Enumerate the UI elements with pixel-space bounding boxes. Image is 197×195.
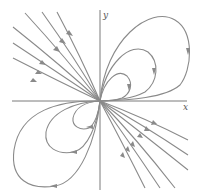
first-quadrant-loops bbox=[100, 17, 190, 101]
phase-portrait: x y bbox=[0, 0, 197, 195]
third-quadrant-loops bbox=[13, 101, 100, 188]
y-axis-label: y bbox=[102, 10, 109, 20]
lower-right-trajectories bbox=[100, 101, 188, 188]
x-axis-label: x bbox=[183, 102, 188, 112]
upper-left-trajectories bbox=[13, 12, 100, 101]
